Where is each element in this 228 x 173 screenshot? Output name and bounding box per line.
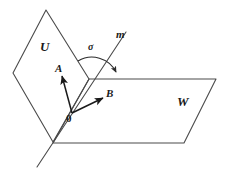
geometry-figure: U W m σ A B 0 bbox=[0, 0, 228, 173]
plane-u-outline bbox=[13, 10, 89, 142]
vector-b-label: B bbox=[106, 88, 113, 99]
line-m-label: m bbox=[116, 29, 125, 40]
plane-w-label: W bbox=[177, 95, 189, 108]
vector-a-label: A bbox=[55, 63, 62, 74]
plane-u-label: U bbox=[40, 40, 49, 53]
line-m-segment bbox=[37, 32, 126, 167]
geometry-canvas bbox=[0, 0, 228, 173]
vector-a-arrow bbox=[62, 76, 72, 113]
angle-sigma-label: σ bbox=[88, 42, 93, 52]
origin-point-label: 0 bbox=[66, 113, 72, 124]
